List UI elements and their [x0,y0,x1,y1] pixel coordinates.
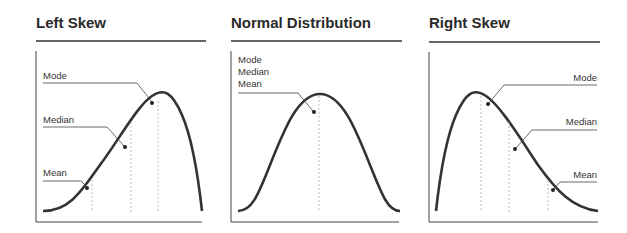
median-label: Median [238,66,269,77]
median-leader-line [516,130,597,148]
median-label: Median [566,116,597,127]
mean-leader-line [43,181,87,187]
mode-label: Mode [573,72,597,83]
mode-leader-line [43,83,152,102]
normal-distribution-panel: Mode Median Mean [231,41,402,222]
mean-label: Mean [238,78,262,89]
left-skew-panel: Mode Median Mean [36,41,206,222]
mode-leader-line [489,85,597,103]
median-point [123,145,127,149]
mode-point [150,101,154,105]
mean-point [85,186,89,190]
mean-label: Mean [43,167,67,178]
median-label: Median [43,114,74,125]
mean-label: Mean [573,169,597,180]
distribution-diagrams: Mode Median Mean Mode Median Mean Mode M… [0,0,627,233]
right-skew-curve [436,92,598,211]
center-point [312,110,316,114]
mode-label: Mode [43,70,67,81]
median-leader-line [43,127,124,146]
right-skew-panel: Mode Median Mean [429,42,600,222]
median-point [513,147,517,151]
mean-point [551,188,555,192]
mode-point [486,102,490,106]
mode-label: Mode [238,54,262,65]
mean-leader-line [554,182,597,189]
left-skew-curve [43,92,202,211]
